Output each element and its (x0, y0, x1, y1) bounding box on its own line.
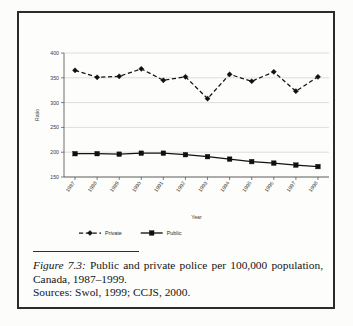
data-point-private (139, 66, 144, 71)
x-tick-label: 1997 (285, 180, 297, 193)
data-point-public (117, 152, 122, 157)
data-point-public (249, 159, 254, 164)
x-tick-label: 1996 (263, 180, 275, 193)
data-point-public (161, 151, 166, 156)
y-tick-labels: 150200250300350400 (50, 50, 59, 180)
figure-label: Figure 7.3: (33, 259, 86, 271)
x-tick-label: 1994 (219, 180, 231, 193)
y-tick-label: 250 (50, 124, 59, 130)
x-axis-title: Year (191, 214, 202, 220)
data-point-public (73, 151, 78, 156)
y-tick-label: 300 (50, 100, 59, 106)
x-tick-label: 1989 (108, 180, 120, 193)
data-point-private (249, 79, 254, 84)
series-layer (72, 66, 320, 169)
data-point-public (227, 157, 232, 162)
data-point-public (95, 151, 100, 156)
figure-frame: 150200250300350400 198719881989199019911… (17, 11, 335, 309)
data-point-private (117, 74, 122, 79)
x-tick-label: 1987 (64, 180, 76, 193)
legend-marker-public (149, 231, 154, 236)
data-point-public (271, 161, 276, 166)
y-tick-label: 350 (50, 75, 59, 81)
data-point-private (72, 68, 77, 73)
data-point-private (95, 75, 100, 80)
data-point-private (161, 78, 166, 83)
data-point-public (205, 154, 210, 159)
y-tick-label: 150 (50, 174, 59, 180)
figure-page: 150200250300350400 198719881989199019911… (0, 0, 353, 326)
line-chart: 150200250300350400 198719881989199019911… (19, 13, 337, 245)
figure-sources: Sources: Swol, 1999; CCJS, 2000. (33, 286, 323, 300)
legend-marker-private (87, 230, 92, 235)
y-tick-label: 200 (50, 149, 59, 155)
series-line-public (75, 153, 318, 166)
y-tick-label: 400 (50, 50, 59, 56)
series-line-private (75, 69, 318, 99)
chart-area: 150200250300350400 198719881989199019911… (19, 13, 337, 245)
gridlines (64, 53, 329, 177)
data-point-public (316, 164, 321, 169)
x-tick-label: 1992 (175, 180, 187, 193)
x-tick-label: 1988 (86, 180, 98, 193)
data-point-public (294, 163, 299, 168)
caption-block: Figure 7.3: Public and private police pe… (33, 251, 323, 300)
x-tick-label: 1998 (307, 180, 319, 193)
chart-legend: PrivatePublic (79, 230, 182, 236)
legend-label-private: Private (105, 230, 122, 236)
figure-caption: Figure 7.3: Public and private police pe… (33, 259, 323, 286)
data-point-public (183, 152, 188, 157)
data-point-public (139, 151, 144, 156)
caption-rule (33, 251, 139, 252)
y-axis-title: Ratio (34, 109, 40, 121)
x-tick-label: 1995 (241, 180, 253, 193)
axes (61, 53, 329, 180)
legend-label-public: Public (167, 230, 182, 236)
x-tick-label: 1993 (197, 180, 209, 193)
x-tick-labels: 1987198819891990199119921993199419951996… (64, 180, 319, 193)
axis-titles: YearRatio (34, 109, 202, 220)
data-point-private (271, 69, 276, 74)
x-tick-label: 1991 (153, 180, 165, 193)
x-tick-label: 1990 (131, 180, 143, 193)
